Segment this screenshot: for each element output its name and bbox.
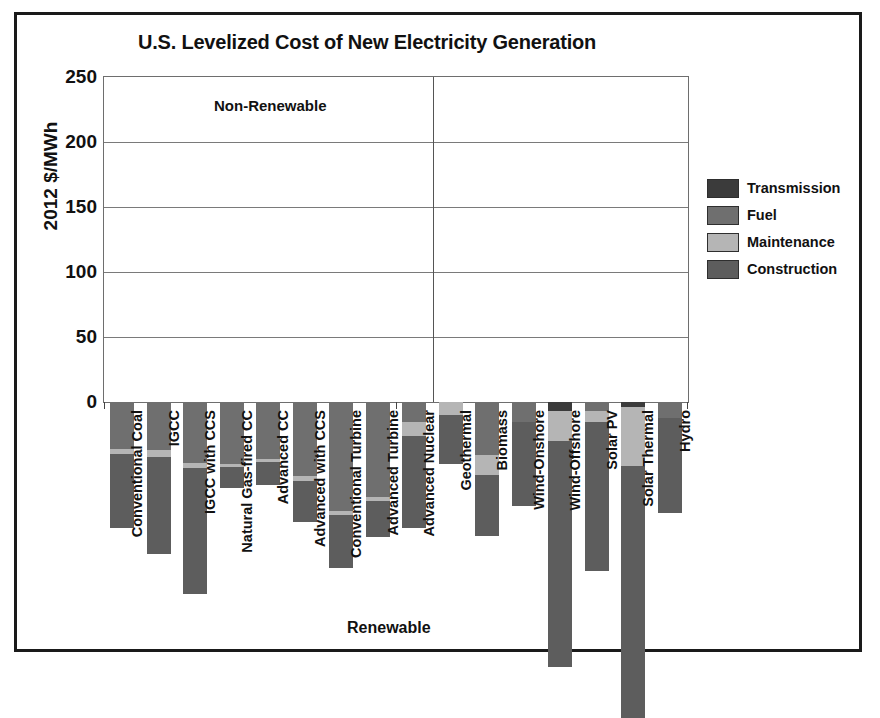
x-axis-category-label: Advanced CC [275, 410, 291, 504]
plot-area: 050100150200250Conventional CoalIGCCIGCC… [103, 76, 689, 403]
gridline [104, 207, 688, 208]
gridline [104, 142, 688, 143]
x-axis-category-label: Solar Thermal [640, 410, 656, 507]
y-axis-tick-label: 150 [65, 196, 97, 218]
x-axis-category-label: Advanced with CCS [312, 410, 328, 547]
legend-swatch-construction [707, 260, 739, 279]
bar-advanced-nuclear[interactable] [402, 276, 426, 402]
legend-item-transmission[interactable]: Transmission [707, 178, 877, 198]
bar-advanced-turbine[interactable] [366, 267, 390, 402]
legend-label: Fuel [747, 207, 777, 223]
y-axis-tick-label: 100 [65, 261, 97, 283]
y-axis-title: 2012 $/MWh [40, 76, 62, 276]
x-axis-category-label: Solar PV [604, 410, 620, 470]
y-axis-tick-label: 0 [86, 391, 97, 413]
x-axis-category-label: Geothermal [458, 410, 474, 491]
bar-advanced-with-ccs[interactable] [293, 282, 317, 402]
bar-segment-transmission [621, 402, 645, 407]
legend-swatch-fuel [707, 206, 739, 225]
x-axis-category-label: Hydro [677, 410, 693, 452]
legend-swatch-maintenance [707, 233, 739, 252]
x-axis-category-label: Conventional Turbine [348, 410, 364, 558]
x-axis-category-label: Advanced Nuclear [421, 410, 437, 537]
bar-hydro[interactable] [658, 292, 682, 403]
group-label-non-renewable: Non-Renewable [214, 97, 327, 114]
x-axis-category-label: Wind-Onshore [531, 410, 547, 510]
x-axis-category-label: IGCC with CCS [202, 410, 218, 514]
bar-segment-construction [475, 475, 499, 536]
bar-geothermal[interactable] [439, 340, 463, 402]
x-axis-title: Renewable [347, 619, 431, 637]
bar-wind-onshore[interactable] [512, 298, 536, 402]
bar-conventional-turbine[interactable] [329, 236, 353, 402]
bar-natural-gas-fired-cc[interactable] [220, 316, 244, 402]
bar-igcc[interactable] [147, 250, 171, 402]
chart-title: U.S. Levelized Cost of New Electricity G… [17, 31, 717, 54]
x-axis-category-label: Advanced Turbine [385, 410, 401, 535]
legend-item-construction[interactable]: Construction [707, 259, 877, 279]
x-axis-category-label: IGCC [166, 410, 182, 446]
legend-label: Transmission [747, 180, 840, 196]
bar-wind-offshore[interactable] [548, 137, 572, 402]
bar-igcc-with-ccs[interactable] [183, 210, 207, 402]
x-axis-tick-mark [687, 402, 688, 409]
bar-solar-pv[interactable] [585, 233, 609, 402]
legend-label: Maintenance [747, 234, 835, 250]
bar-segment-construction [147, 457, 171, 555]
x-axis-category-label: Wind-Offshore [567, 410, 583, 511]
chart-frame: U.S. Levelized Cost of New Electricity G… [14, 12, 862, 652]
group-divider [433, 77, 434, 402]
x-axis-category-label: Biomass [494, 410, 510, 470]
x-axis-category-label: Natural Gas-fired CC [239, 410, 255, 553]
legend-swatch-transmission [707, 179, 739, 198]
legend-item-maintenance[interactable]: Maintenance [707, 232, 877, 252]
y-axis-tick-label: 50 [76, 326, 97, 348]
legend-item-fuel[interactable]: Fuel [707, 205, 877, 225]
bar-solar-thermal[interactable] [621, 86, 645, 402]
bar-advanced-cc[interactable] [256, 319, 280, 402]
y-axis-tick-label: 250 [65, 66, 97, 88]
x-axis-tick-mark [104, 402, 105, 409]
legend-label: Construction [747, 261, 837, 277]
x-axis-tick-mark [396, 402, 397, 409]
legend: TransmissionFuelMaintenanceConstruction [707, 178, 877, 286]
bar-segment-maintenance [147, 450, 171, 457]
y-axis-tick-label: 200 [65, 131, 97, 153]
bar-conventional-coal[interactable] [110, 276, 134, 402]
x-axis-category-label: Conventional Coal [129, 410, 145, 537]
bar-biomass[interactable] [475, 268, 499, 402]
